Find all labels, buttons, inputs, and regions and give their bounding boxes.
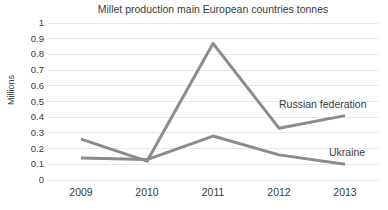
y-axis-tick-label: 0.7 (18, 65, 44, 75)
series-label-russian-federation: Russian federation (279, 98, 367, 111)
x-axis-tick-label: 2009 (51, 186, 111, 199)
series-line-ukraine (81, 136, 345, 164)
x-axis-tick-label: 2012 (249, 186, 309, 199)
y-axis-tick-label: 0.5 (18, 97, 44, 107)
y-axis-tick-label: 0.3 (18, 128, 44, 138)
y-axis-tick-label: 0.2 (18, 144, 44, 154)
x-axis-tick-label: 2010 (117, 186, 177, 199)
y-axis-tick-label: 0.9 (18, 34, 44, 44)
y-axis-tick-labels: 10.90.80.70.60.50.40.30.20.10 (18, 23, 44, 180)
y-axis-title: Millions (6, 60, 16, 120)
chart-title: Millet production main European countrie… (48, 3, 378, 16)
y-axis-tick-label: 0.6 (18, 81, 44, 91)
x-axis-tick-labels: 20092010201120122013 (48, 186, 382, 202)
y-axis-tick-label: 0.1 (18, 159, 44, 169)
y-axis-tick-label: 0 (18, 175, 44, 185)
y-axis-tick-label: 0.8 (18, 49, 44, 59)
y-axis-tick-label: 1 (18, 18, 44, 28)
x-axis-tick-label: 2011 (183, 186, 243, 199)
x-axis-tick-label: 2013 (315, 186, 375, 199)
series-label-ukraine: Ukraine (329, 146, 365, 159)
line-chart: Millet production main European countrie… (0, 0, 388, 210)
y-axis-tick-label: 0.4 (18, 112, 44, 122)
